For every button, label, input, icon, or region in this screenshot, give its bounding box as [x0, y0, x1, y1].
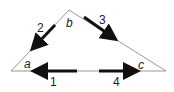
vertex-label-a: a: [24, 57, 31, 71]
arrow-label-4: 4: [113, 75, 120, 89]
arrow-3: [84, 17, 111, 36]
arrow-label-2: 2: [37, 21, 44, 35]
triangle-diagram: a b c 1 2 3 4: [0, 0, 174, 92]
arrow-label-1: 1: [50, 75, 57, 89]
vertex-label-c: c: [138, 58, 144, 72]
vertex-label-b: b: [66, 16, 73, 30]
arrow-label-3: 3: [99, 13, 106, 27]
